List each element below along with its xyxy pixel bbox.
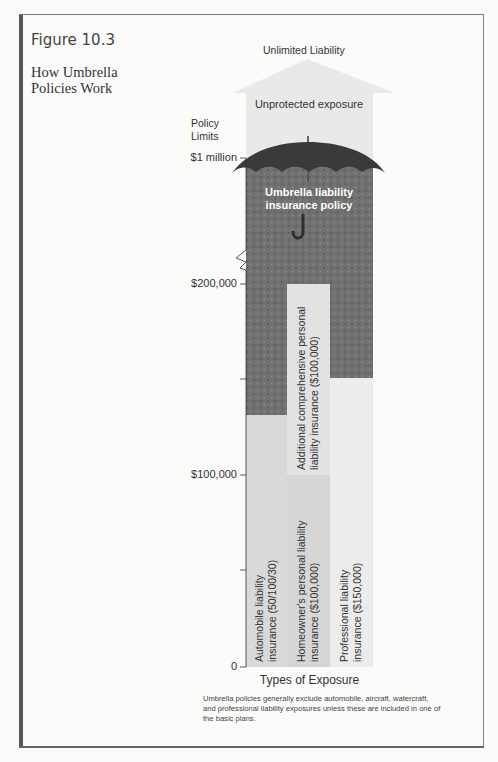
unprotected-exposure-label: Unprotected exposure (250, 98, 368, 111)
tick-1-million: $1 million (157, 151, 237, 163)
axis-break-icon (236, 250, 246, 270)
additional-comprehensive-label: Additional comprehensive personalliabili… (295, 307, 321, 470)
homeowner-liability-label: Homeowner's personal liabilityinsurance … (295, 521, 321, 662)
umbrella-policy-label: Umbrella liability insurance policy (250, 186, 368, 212)
policy-limits-label: Policy Limits (191, 117, 231, 143)
tick-200000: $200,000 (157, 277, 237, 289)
tick-100000: $100,000 (157, 468, 237, 480)
types-of-exposure-label: Types of Exposure (246, 673, 373, 687)
auto-liability-label: Automobile liabilityinsurance (50/100/30… (253, 560, 279, 662)
footnote: Umbrella policies generally exclude auto… (203, 694, 443, 724)
umbrella-diagram (0, 0, 498, 762)
unlimited-liability-label: Unlimited Liability (263, 44, 345, 56)
tick-0: 0 (157, 660, 237, 672)
professional-liability-label: Professional liabilityinsurance ($150,00… (338, 563, 364, 662)
